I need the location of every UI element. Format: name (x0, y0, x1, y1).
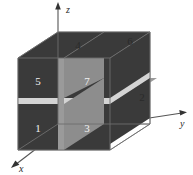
label-1: 1 (35, 122, 41, 134)
vertical-plane-front-slab (58, 58, 64, 150)
label-4: 4 (75, 39, 81, 51)
y-axis-label: y (179, 118, 185, 129)
label-3: 3 (84, 122, 90, 134)
y-axis-arrowhead (179, 110, 187, 116)
z-axis-arrowhead (55, 2, 61, 10)
octant-face-1 (18, 104, 64, 150)
label-2: 2 (139, 91, 145, 103)
octree-cube-figure: 4 6 5 7 1 3 2 z y x (0, 0, 193, 175)
x-axis-label: x (18, 163, 24, 174)
octant-face-5 (18, 58, 64, 104)
cube-diagram-svg: 4 6 5 7 1 3 2 z y x (0, 0, 193, 175)
z-axis-label: z (65, 4, 70, 15)
label-5: 5 (35, 75, 41, 87)
label-6: 6 (127, 35, 133, 47)
label-7: 7 (84, 75, 90, 87)
